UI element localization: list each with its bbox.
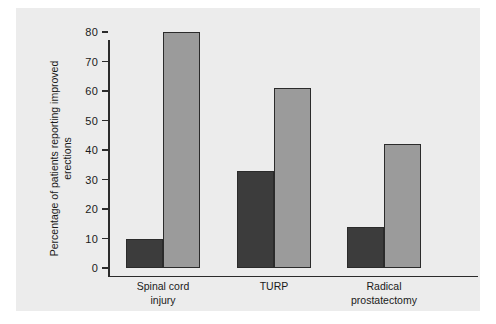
y-axis-tick: 70 [102,61,108,63]
x-axis-category-label: Radical prostatectomy [324,280,444,307]
y-axis-title: Percentage of patients reporting improve… [46,40,76,277]
y-axis-tick-label: 40 [85,144,98,156]
y-axis-line [108,40,110,277]
y-axis-tick-label: 60 [85,85,98,97]
y-axis-tick: 10 [102,238,108,240]
x-axis-category-label: TURP [214,280,334,294]
y-axis-tick: 0 [102,267,108,269]
x-axis-category-label: Spinal cord injury [103,280,223,307]
chart-figure-panel: 01020304050607080 Percentage of patients… [16,8,480,311]
y-axis-tick-label: 20 [85,203,98,215]
y-axis-tick: 50 [102,120,108,122]
bar [237,171,274,268]
y-axis-tick: 80 [102,31,108,33]
bar [347,227,384,268]
y-axis-tick: 30 [102,179,108,181]
x-axis-line [108,276,478,278]
y-axis-tick-label: 10 [85,233,98,245]
y-axis-tick-label: 80 [85,26,98,38]
bar [274,88,311,268]
y-axis-tick-label: 50 [85,115,98,127]
y-axis-tick-label: 70 [85,56,98,68]
bar [126,239,163,269]
bar [163,32,200,268]
y-axis-tick-label: 30 [85,174,98,186]
y-axis-tick: 40 [102,149,108,151]
bar [384,144,421,268]
y-axis-tick: 60 [102,90,108,92]
y-axis-tick-label: 0 [92,262,98,274]
y-axis-tick: 20 [102,208,108,210]
plot-area: 01020304050607080 Percentage of patients… [16,8,480,311]
